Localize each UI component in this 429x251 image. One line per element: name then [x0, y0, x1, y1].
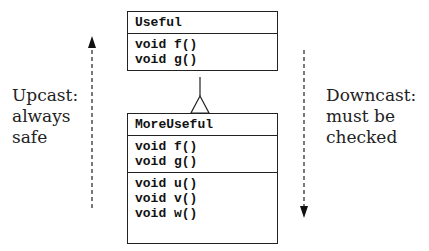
method: void u(): [135, 176, 270, 191]
label-line: safe: [12, 127, 78, 148]
downcast-label: Downcast: must be checked: [326, 85, 416, 148]
method: void f(): [135, 139, 270, 154]
class-name: MoreUseful: [128, 114, 277, 136]
method: void w(): [135, 206, 270, 221]
class-moreuseful: MoreUseful void f() void g() void u() vo…: [127, 113, 278, 244]
label-line: must be: [326, 106, 416, 127]
downcast-arrowhead-icon: [300, 206, 308, 218]
class-name: Useful: [128, 12, 277, 34]
upcast-arrowhead-icon: [88, 36, 96, 48]
class-useful: Useful void f() void g(): [127, 11, 278, 71]
label-line: Upcast:: [12, 85, 78, 106]
methods-section: void f() void g(): [128, 136, 277, 173]
methods-section: void u() void v() void w(): [128, 173, 277, 224]
method: void v(): [135, 191, 270, 206]
label-line: checked: [326, 127, 416, 148]
methods-section: void f() void g(): [128, 34, 277, 70]
inheritance-triangle-icon: [191, 96, 209, 113]
method: void g(): [135, 52, 270, 67]
method: void f(): [135, 37, 270, 52]
method: void g(): [135, 154, 270, 169]
label-line: always: [12, 106, 78, 127]
label-line: Downcast:: [326, 85, 416, 106]
upcast-label: Upcast: always safe: [12, 85, 78, 148]
